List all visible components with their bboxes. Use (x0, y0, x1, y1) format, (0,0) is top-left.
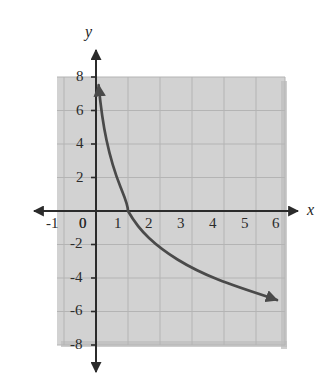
y-tick-label-8: 8 (76, 69, 84, 84)
y-tick-label--2: -2 (70, 236, 83, 251)
plot-area-shadow-right (281, 81, 287, 349)
x-tick-label-3: 3 (177, 216, 185, 231)
plot-area-shadow-bottom (61, 341, 287, 347)
y-tick-label--4: -4 (70, 270, 83, 285)
x-tick-label-2: 2 (145, 216, 153, 231)
coordinate-plane (0, 0, 331, 385)
y-tick-label--6: -6 (70, 303, 83, 318)
x-tick-label--1: -1 (46, 216, 59, 231)
y-tick-label-2: 2 (76, 170, 84, 185)
x-tick-label-6: 6 (272, 216, 280, 231)
x-axis-label: x (307, 202, 314, 218)
graph-figure: y x -1 0 1 2 3 4 5 6 8 6 4 2 0 -2 -4 -6 … (0, 0, 331, 385)
x-tick-label-5: 5 (241, 216, 249, 231)
y-axis-label: y (85, 24, 92, 40)
x-tick-label-4: 4 (209, 216, 217, 231)
y-tick-label-4: 4 (76, 136, 84, 151)
y-tick-label-0: 0 (79, 216, 87, 231)
y-tick-label--8: -8 (70, 337, 83, 352)
y-tick-label-6: 6 (76, 103, 84, 118)
x-tick-label-1: 1 (114, 216, 122, 231)
